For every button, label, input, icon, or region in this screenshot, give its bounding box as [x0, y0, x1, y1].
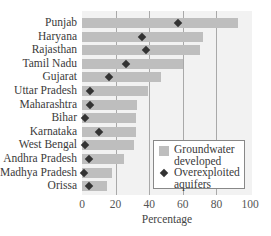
category-label: Karnataka [30, 125, 77, 138]
category-label: Tamil Nadu [23, 57, 77, 70]
chart: PunjabHaryanaRajasthanTamil NaduGujaratU… [0, 0, 271, 236]
x-tick-label: 0 [79, 198, 85, 210]
x-tick-label: 40 [143, 198, 155, 210]
category-label: Bihar [51, 111, 77, 124]
bar-groundwater-developed [82, 127, 136, 137]
bar-groundwater-developed [82, 18, 238, 28]
x-tick-label: 20 [110, 198, 122, 210]
category-label: Gujarat [43, 70, 77, 83]
legend-label-overexploited: Overexploited aquifers [174, 166, 244, 190]
x-tick-label: 100 [241, 198, 258, 210]
legend-swatch-groundwater-icon [159, 146, 169, 156]
x-tick-label: 60 [177, 198, 189, 210]
category-label: Orissa [48, 179, 77, 192]
legend: Groundwater developed Overexploited aqui… [153, 140, 245, 189]
bar-groundwater-developed [82, 140, 134, 150]
legend-diamond-icon [160, 169, 168, 177]
category-label: Madhya Pradesh [0, 166, 77, 179]
bar-groundwater-developed [82, 59, 183, 69]
bar-groundwater-developed [82, 113, 136, 123]
legend-label-groundwater: Groundwater developed [174, 143, 244, 167]
category-label: Maharashtra [20, 98, 77, 111]
bar-groundwater-developed [82, 45, 200, 55]
category-label: Rajasthan [32, 43, 77, 56]
category-label: Punjab [45, 16, 77, 29]
category-label: Uttar Pradesh [14, 84, 77, 97]
x-tick-label: 80 [211, 198, 223, 210]
bar-groundwater-developed [82, 72, 161, 82]
x-axis-label: Percentage [142, 213, 192, 225]
category-label: Andhra Pradesh [3, 152, 77, 165]
category-label: West Bengal [19, 138, 77, 151]
category-label: Haryana [38, 30, 77, 43]
